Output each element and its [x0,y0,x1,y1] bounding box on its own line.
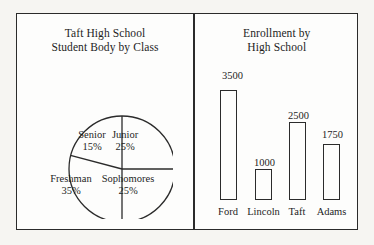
pie-svg [37,91,173,219]
pie-slice-label-freshman: Freshman 35% [40,173,102,197]
bar-rect-adams[interactable] [323,144,340,200]
pie-chart-title: Taft High School Student Body by Class [17,26,193,54]
bar-value-taft: 2500 [277,110,321,122]
pie-slice-name-freshman: Freshman [50,173,91,184]
bar-category-adams: Adams [308,206,356,218]
pie-slice-pct-sophomores: 25% [93,185,163,197]
pie-slice-pct-freshman: 35% [40,185,102,197]
pie-chart-title-line-1: Taft High School [17,26,193,40]
pie-slice-label-senior: Senior 15% [67,129,117,153]
bar-rect-lincoln[interactable] [255,169,272,200]
pie-chart-panel: Taft High School Student Body by Class J… [17,14,193,229]
bar-value-ford: 3500 [211,70,255,82]
bar-rect-taft[interactable] [289,122,306,200]
bar-chart-graphic: 3500 Ford 1000 Lincoln 2500 Taft 1750 Ad… [195,14,360,229]
pie-slice-label-sophomores: Sophomores 25% [93,173,163,197]
bar-chart-panel: Enrollment by High School 3500 Ford 1000… [195,14,360,229]
pie-slice-name-sophomores: Sophomores [102,173,155,184]
bar-value-lincoln: 1000 [243,157,287,169]
pie-slice-name-senior: Senior [78,129,105,140]
pie-chart-title-line-2: Student Body by Class [17,40,193,54]
pie-chart-graphic: Junior 25% Sophomores 25% Freshman 35% S… [37,91,173,219]
pie-slice-pct-senior: 15% [67,141,117,153]
bar-rect-ford[interactable] [220,90,237,200]
bar-value-adams: 1750 [311,129,355,141]
figure-frame: Taft High School Student Body by Class J… [16,13,358,230]
